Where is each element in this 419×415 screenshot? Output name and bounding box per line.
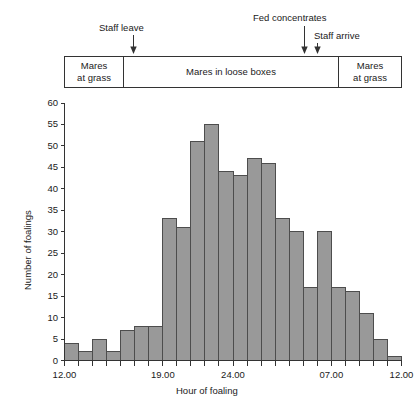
histogram-bar [359, 313, 373, 360]
histogram-bar [107, 352, 121, 361]
y-tick-label: 60 [36, 97, 58, 108]
histogram-bar [303, 288, 317, 361]
histogram-bar [205, 124, 219, 360]
histogram-bar [219, 172, 233, 361]
x-tick-label: 12.00 [379, 369, 419, 380]
y-tick-label: 45 [36, 161, 58, 172]
histogram-bar [289, 232, 303, 361]
histogram-bar [233, 176, 247, 361]
histogram-bar [191, 142, 205, 361]
histogram-bar [331, 288, 345, 361]
histogram-bar [79, 352, 93, 361]
y-tick-label: 0 [36, 355, 58, 366]
x-tick-label: 12.00 [42, 369, 88, 380]
y-tick-label: 30 [36, 226, 58, 237]
y-tick-label: 35 [36, 204, 58, 215]
x-tick-label: 07.00 [308, 369, 354, 380]
y-tick-label: 50 [36, 140, 58, 151]
histogram-bar [65, 343, 79, 360]
y-tick-label: 20 [36, 269, 58, 280]
y-tick-label: 25 [36, 247, 58, 258]
x-tick-label: 19.00 [140, 369, 186, 380]
y-tick-label: 55 [36, 118, 58, 129]
y-tick-label: 40 [36, 183, 58, 194]
histogram-bar [275, 219, 289, 361]
histogram-bar [345, 292, 359, 361]
x-tick-label: 24.00 [210, 369, 256, 380]
histogram-bar [261, 163, 275, 360]
y-tick-label: 15 [36, 290, 58, 301]
histogram-bar [373, 339, 387, 360]
histogram-plot [0, 0, 419, 415]
histogram-bar [93, 339, 107, 360]
y-tick-label: 10 [36, 312, 58, 323]
histogram-bar [121, 330, 135, 360]
histogram-bar [163, 219, 177, 361]
histogram-bar [149, 326, 163, 360]
y-tick-label: 5 [36, 333, 58, 344]
histogram-bar [135, 326, 149, 360]
histogram-bar [317, 232, 331, 361]
histogram-bar [247, 159, 261, 361]
histogram-bar [177, 227, 191, 360]
histogram-bar [387, 356, 401, 360]
